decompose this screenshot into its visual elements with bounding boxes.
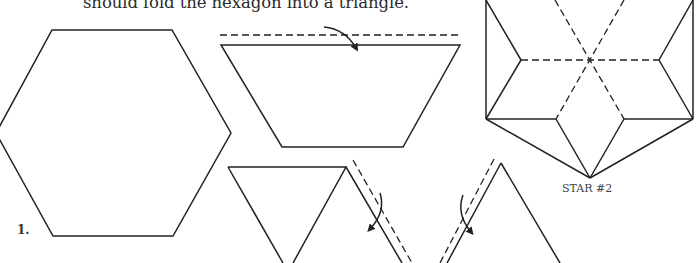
- triangle-fold-right-figure: [228, 160, 412, 263]
- star-label: STAR #2: [562, 182, 612, 195]
- triangle-fold-left-figure: [440, 159, 560, 263]
- trapezoid-fold-figure: [220, 27, 461, 147]
- step-number: 1.: [17, 223, 30, 237]
- diagram-canvas: [0, 0, 698, 263]
- star-2-figure: [486, 0, 693, 178]
- page: should fold the hexagon into a triangle.: [0, 0, 698, 263]
- hexagon-figure: [0, 30, 231, 236]
